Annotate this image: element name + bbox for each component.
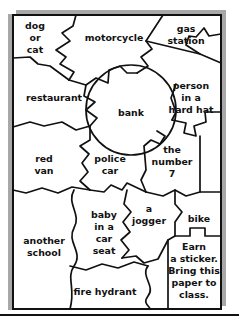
bottom-rule [0, 314, 239, 316]
piece-label-fire-hydrant: fire hydrant [74, 286, 137, 297]
piece-label-another-school: anotherschool [23, 235, 65, 258]
piece-label-restaurant: restaurant [26, 92, 83, 103]
piece-label-red-van: redvan [34, 153, 53, 176]
worksheet-page: dogorcat motorcycle gasstation restauran… [0, 0, 239, 323]
piece-label-bank: bank [118, 107, 145, 118]
piece-label-bike: bike [188, 213, 210, 224]
piece-label-motorcycle: motorcycle [85, 32, 144, 43]
puzzle-diagram: dogorcat motorcycle gasstation restauran… [0, 0, 239, 323]
